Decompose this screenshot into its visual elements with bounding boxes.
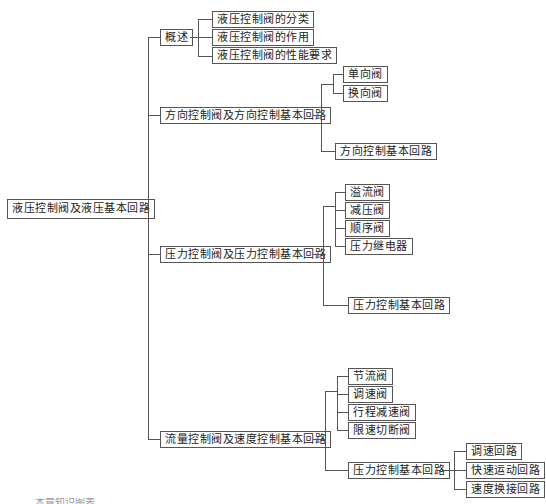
mind-map: 液压控制阀及液压基本回路 概述 液压控制阀的分类 液压控制阀的作用 液压控制阀的… [0, 0, 546, 504]
connector [313, 115, 321, 116]
branch-flow: 流量控制阀及速度控制基本回路 [160, 431, 331, 448]
leaf-node: 顺序阀 [345, 220, 390, 237]
leaf-node: 调速回路 [466, 443, 522, 460]
connector [325, 391, 337, 392]
leaf-node: 行程减速阀 [348, 404, 416, 421]
leaf-node: 单向阀 [343, 66, 388, 83]
connector [323, 305, 348, 306]
branch-direction: 方向控制阀及方向控制基本回路 [160, 107, 331, 124]
root-node: 液压控制阀及液压基本回路 [7, 199, 155, 219]
leaf-node: 方向控制基本回路 [335, 143, 437, 160]
leaf-node: 减压阀 [345, 202, 390, 219]
connector [333, 74, 343, 75]
leaf-node: 溢流阀 [345, 184, 390, 201]
connector [454, 470, 466, 471]
connector [335, 246, 345, 247]
branch-pressure: 压力控制阀及压力控制基本回路 [160, 246, 331, 263]
connector [321, 84, 333, 85]
leaf-node: 快速运动回路 [466, 462, 545, 479]
connector [148, 115, 160, 116]
connector [333, 74, 334, 93]
connector [337, 376, 338, 430]
connector [198, 37, 212, 38]
connector [335, 228, 345, 229]
trunk [148, 37, 149, 439]
leaf-node: 液压控制阀的作用 [212, 29, 314, 46]
connector [148, 439, 160, 440]
connector [454, 451, 466, 452]
connector [337, 394, 348, 395]
connector [313, 439, 325, 440]
caption: 本章知识图表 [35, 498, 110, 504]
leaf-node: 节流阀 [348, 368, 393, 385]
connector [333, 93, 343, 94]
connector [321, 84, 322, 151]
connector [335, 210, 345, 211]
leaf-node: 液压控制阀的性能要求 [212, 47, 337, 64]
connector [337, 430, 348, 431]
connector [148, 37, 160, 38]
connector [313, 254, 323, 255]
connector [323, 206, 324, 305]
branch-overview: 概述 [160, 29, 193, 46]
connector [148, 254, 160, 255]
connector [335, 192, 336, 246]
connector [323, 206, 335, 207]
connector [325, 391, 326, 470]
leaf-node: 压力控制基本回路 [348, 297, 450, 314]
connector [325, 470, 348, 471]
leaf-node: 压力继电器 [345, 238, 413, 255]
connector [442, 470, 454, 471]
leaf-node: 压力控制基本回路 [348, 462, 450, 479]
connector [337, 376, 348, 377]
connector [321, 151, 335, 152]
connector [190, 37, 198, 38]
leaf-node: 速度换接回路 [466, 481, 545, 498]
leaf-node: 调速阀 [348, 386, 393, 403]
leaf-node: 液压控制阀的分类 [212, 11, 314, 28]
connector [198, 56, 212, 57]
connector [337, 412, 348, 413]
leaf-node: 换向阀 [343, 85, 388, 102]
connector [335, 192, 345, 193]
connector [454, 489, 466, 490]
leaf-node: 限速切断阀 [348, 422, 416, 439]
connector [198, 19, 212, 20]
connector [140, 208, 148, 209]
